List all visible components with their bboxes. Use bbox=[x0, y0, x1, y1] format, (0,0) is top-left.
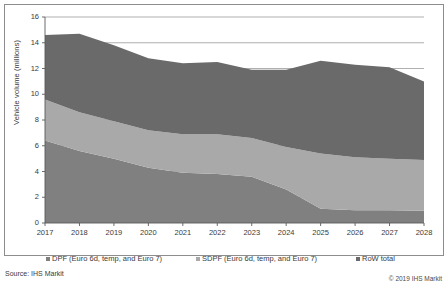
legend-label: RoW total bbox=[362, 254, 395, 263]
area-bands-group bbox=[45, 34, 424, 223]
y-tick-label: 4 bbox=[21, 167, 39, 176]
x-tick-label: 2027 bbox=[373, 228, 407, 237]
x-tick-label: 2026 bbox=[338, 228, 372, 237]
y-tick-label: 6 bbox=[21, 141, 39, 150]
x-tick-label: 2020 bbox=[131, 228, 165, 237]
copyright-note: © 2019 IHS Markit bbox=[389, 275, 442, 282]
y-tick-label: 12 bbox=[21, 64, 39, 73]
x-tick-label: 2024 bbox=[269, 228, 303, 237]
x-tick-label: 2025 bbox=[304, 228, 338, 237]
x-tick-label: 2028 bbox=[407, 228, 441, 237]
y-tick-label: 2 bbox=[21, 192, 39, 201]
chart-legend: DPF (Euro 6d, temp, and Euro 7)SDPF (Eur… bbox=[0, 252, 448, 270]
x-tick-label: 2017 bbox=[28, 228, 62, 237]
y-tick-label: 0 bbox=[21, 218, 39, 227]
legend-label: DPF (Euro 6d, temp, and Euro 7) bbox=[52, 254, 162, 263]
legend-swatch-icon bbox=[46, 257, 50, 261]
legend-item[interactable]: SDPF (Euro 6d, temp, and Euro 7) bbox=[196, 254, 317, 263]
legend-swatch-icon bbox=[356, 257, 360, 261]
x-tick-label: 2018 bbox=[62, 228, 96, 237]
legend-item[interactable]: RoW total bbox=[356, 254, 395, 263]
x-tick-label: 2022 bbox=[200, 228, 234, 237]
chart-figure: Vehicle volume (millions) 0246810121416 … bbox=[0, 0, 448, 288]
x-tick-label: 2021 bbox=[166, 228, 200, 237]
x-tick-label: 2019 bbox=[97, 228, 131, 237]
y-tick-label: 16 bbox=[21, 12, 39, 21]
legend-item[interactable]: DPF (Euro 6d, temp, and Euro 7) bbox=[46, 254, 162, 263]
legend-label: SDPF (Euro 6d, temp, and Euro 7) bbox=[202, 254, 317, 263]
stacked-area-plot bbox=[0, 0, 448, 260]
x-tick-label: 2023 bbox=[235, 228, 269, 237]
y-tick-label: 10 bbox=[21, 89, 39, 98]
y-tick-label: 14 bbox=[21, 38, 39, 47]
y-tick-label: 8 bbox=[21, 115, 39, 124]
legend-swatch-icon bbox=[196, 257, 200, 261]
source-note: Source: IHS Markit bbox=[5, 270, 64, 277]
